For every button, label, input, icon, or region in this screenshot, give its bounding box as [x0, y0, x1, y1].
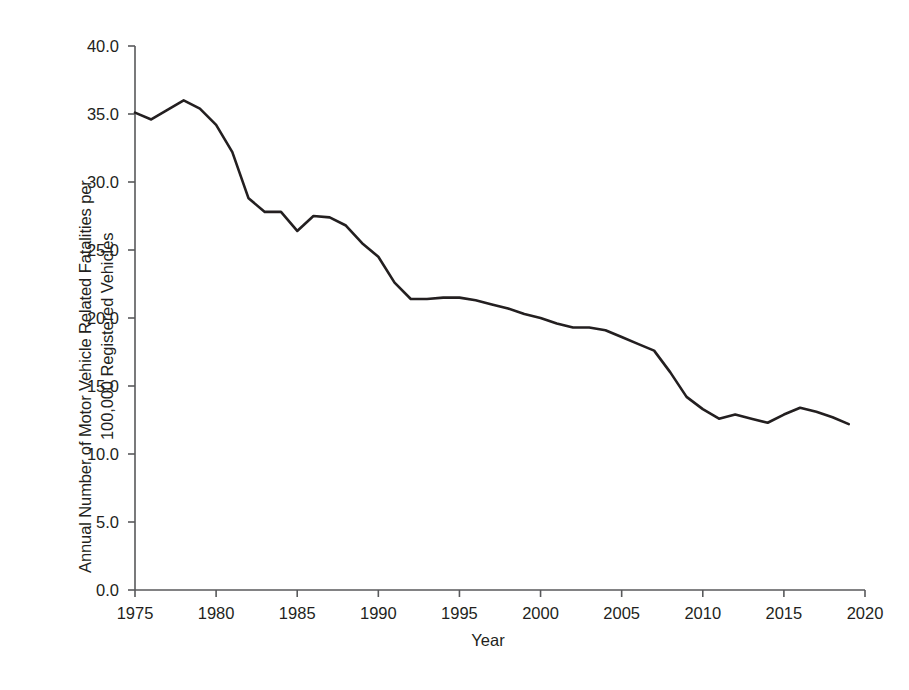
- y-tick-label: 20.0: [87, 309, 119, 327]
- x-tick-label: 2005: [603, 604, 640, 622]
- fatalities-line-chart: Annual Number of Motor Vehicle Related F…: [0, 0, 909, 690]
- x-tick-label: 2015: [766, 604, 803, 622]
- x-tick-label: 1995: [441, 604, 478, 622]
- x-tick-label: 2020: [847, 604, 884, 622]
- y-tick-label: 10.0: [87, 445, 119, 463]
- y-tick-label: 35.0: [87, 105, 119, 123]
- y-tick-label: 40.0: [87, 37, 119, 55]
- y-tick-label: 30.0: [87, 173, 119, 191]
- x-tick-label: 1985: [279, 604, 316, 622]
- x-tick-label: 2010: [684, 604, 721, 622]
- y-tick-label: 0.0: [96, 581, 119, 599]
- y-tick-label: 5.0: [96, 513, 119, 531]
- x-tick-mark-group: [135, 590, 865, 597]
- y-tick-label: 15.0: [87, 377, 119, 395]
- data-series-line: [135, 100, 849, 424]
- plot-area: 40.035.030.025.020.015.010.05.00.0 19751…: [0, 0, 909, 690]
- x-tick-label-group: 1975198019851990199520002005201020152020: [117, 604, 884, 622]
- x-tick-label: 1990: [360, 604, 397, 622]
- x-axis-title: Year: [135, 631, 841, 650]
- y-tick-mark-group: [128, 46, 135, 590]
- x-tick-label: 1975: [117, 604, 154, 622]
- x-tick-label: 2000: [522, 604, 559, 622]
- y-tick-label-group: 40.035.030.025.020.015.010.05.00.0: [87, 37, 119, 599]
- x-tick-label: 1980: [198, 604, 235, 622]
- y-tick-label: 25.0: [87, 241, 119, 259]
